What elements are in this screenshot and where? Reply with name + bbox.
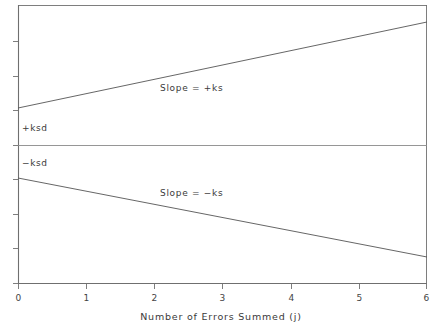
annotation-slope-negative: Slope = −ks (160, 188, 223, 198)
y-axis-ticks (13, 42, 18, 284)
chart-figure: Slope = +ks Slope = −ks +ksd −ksd 0 1 2 … (0, 0, 442, 330)
upper-bound-line (18, 22, 427, 108)
x-tick-label-3: 3 (208, 293, 238, 303)
x-tick-label-2: 2 (140, 293, 170, 303)
x-tick-label-0: 0 (4, 293, 34, 303)
x-tick-label-1: 1 (72, 293, 102, 303)
x-tick-label-4: 4 (277, 293, 307, 303)
x-tick-label-6: 6 (412, 293, 442, 303)
x-axis-title: Number of Errors Summed (j) (0, 311, 442, 322)
annotation-plus-ksd: +ksd (22, 123, 48, 133)
plot-canvas (0, 0, 442, 330)
annotation-slope-positive: Slope = +ks (160, 83, 223, 93)
x-tick-label-5: 5 (345, 293, 375, 303)
annotation-minus-ksd: −ksd (22, 158, 48, 168)
